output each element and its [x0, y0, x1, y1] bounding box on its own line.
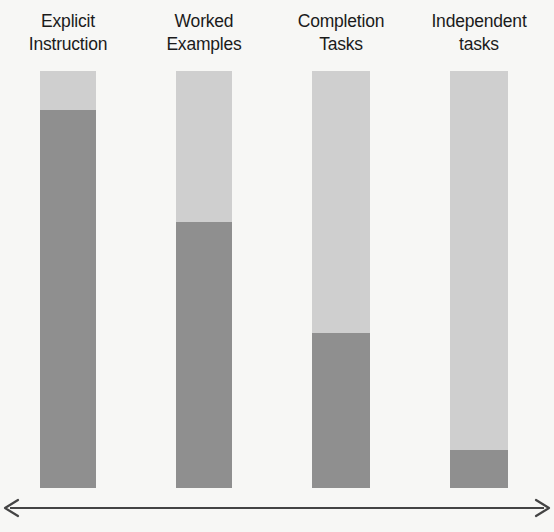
column-label-explicit-instruction: Explicit Instruction: [0, 10, 136, 56]
stacked-bar-independent-tasks: [450, 71, 508, 488]
continuum-arrow-icon: [0, 494, 554, 524]
bar-dark-segment-independent-tasks: [450, 450, 508, 488]
bar-dark-segment-worked-examples: [176, 222, 232, 488]
bar-dark-segment-completion-tasks: [312, 333, 370, 488]
bar-dark-segment-explicit-instruction: [40, 110, 96, 488]
figure-canvas: Explicit Instruction Worked Examples Com…: [0, 0, 554, 532]
column-label-independent-tasks: Independent tasks: [411, 10, 547, 56]
column-label-completion-tasks: Completion Tasks: [273, 10, 409, 56]
column-label-worked-examples: Worked Examples: [136, 10, 272, 56]
stacked-bar-explicit-instruction: [40, 71, 96, 488]
stacked-bar-completion-tasks: [312, 71, 370, 488]
stacked-bar-worked-examples: [176, 71, 232, 488]
